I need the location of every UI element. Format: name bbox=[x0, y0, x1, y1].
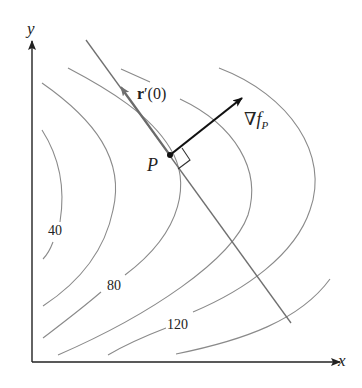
point-p bbox=[167, 152, 173, 158]
level-label-120: 120 bbox=[166, 318, 189, 332]
right-angle-marker bbox=[178, 148, 190, 169]
level-curve-1 bbox=[42, 130, 62, 259]
x-axis-label: x bbox=[338, 352, 346, 369]
gradient-subscript: P bbox=[262, 119, 269, 131]
level-curve-3 bbox=[43, 68, 181, 338]
y-axis-label: y bbox=[27, 20, 35, 37]
level-label-40: 40 bbox=[47, 224, 63, 238]
level-curve-6 bbox=[176, 279, 330, 354]
tangent-vector-rest: ′(0) bbox=[144, 85, 166, 102]
level-curve-2 bbox=[42, 83, 116, 306]
level-label-80: 80 bbox=[106, 279, 122, 293]
gradient-vector-label: ∇fP bbox=[244, 110, 268, 131]
tangent-vector-label: r′(0) bbox=[137, 86, 166, 102]
gradient-vector-arrow bbox=[170, 98, 242, 155]
point-label: P bbox=[147, 156, 158, 174]
nabla-symbol: ∇ bbox=[244, 109, 257, 129]
level-curve-4 bbox=[58, 69, 252, 355]
